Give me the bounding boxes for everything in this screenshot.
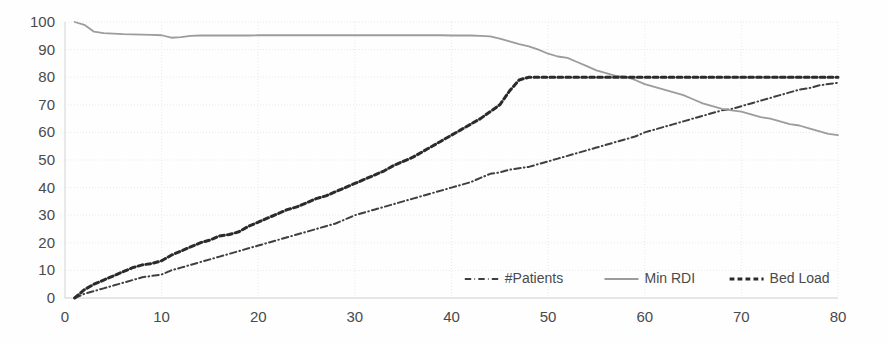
x-axis-tick-label: 40: [443, 308, 460, 325]
y-axis-tick-label: 0: [47, 289, 55, 306]
x-axis-tick-labels: 01020304050607080: [61, 308, 847, 325]
y-axis-tick-label: 70: [38, 96, 55, 113]
y-axis-tick-label: 30: [38, 206, 55, 223]
legend-label: Bed Load: [770, 270, 830, 286]
x-axis-tick-label: 10: [153, 308, 170, 325]
y-axis-tick-label: 60: [38, 123, 55, 140]
data-series-group: [75, 22, 838, 298]
x-axis-tick-label: 0: [61, 308, 69, 325]
legend-label: Min RDI: [645, 270, 696, 286]
series-line-min-rdi: [75, 22, 838, 135]
gridlines-group: [65, 22, 838, 298]
y-axis-tick-labels: 0102030405060708090100: [30, 13, 55, 306]
chart-legend: #PatientsMin RDIBed Load: [465, 270, 830, 286]
x-axis-tick-label: 80: [830, 308, 847, 325]
y-axis-tick-label: 40: [38, 179, 55, 196]
x-axis-tick-label: 50: [540, 308, 557, 325]
legend-item-min-rdi[interactable]: Min RDI: [605, 270, 696, 286]
series-line-patients: [75, 83, 838, 298]
legend-item-patients[interactable]: #Patients: [465, 270, 563, 286]
y-axis-tick-label: 90: [38, 41, 55, 58]
x-axis-tick-label: 30: [347, 308, 364, 325]
x-axis-tick-label: 60: [636, 308, 653, 325]
y-axis-tick-label: 10: [38, 261, 55, 278]
legend-label: #Patients: [505, 270, 563, 286]
line-chart: 0102030405060708090100 01020304050607080…: [0, 0, 889, 344]
x-axis-tick-label: 70: [733, 308, 750, 325]
legend-item-bed-load[interactable]: Bed Load: [730, 270, 830, 286]
y-axis-tick-label: 20: [38, 234, 55, 251]
chart-container: 0102030405060708090100 01020304050607080…: [0, 0, 889, 344]
y-axis-tick-label: 100: [30, 13, 55, 30]
y-axis-tick-label: 50: [38, 151, 55, 168]
y-axis-tick-label: 80: [38, 68, 55, 85]
x-axis-tick-label: 20: [250, 308, 267, 325]
